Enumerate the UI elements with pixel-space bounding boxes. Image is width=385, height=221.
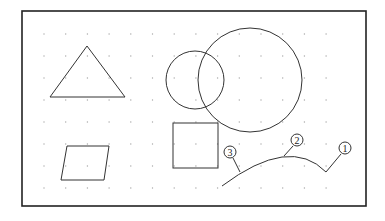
grid-dot	[152, 121, 153, 122]
grid-dot	[152, 187, 153, 188]
grid-dot	[239, 165, 240, 166]
grid-dot	[87, 143, 88, 144]
grid-dot	[65, 165, 66, 166]
grid-dot	[217, 33, 218, 34]
grid-dot	[195, 121, 196, 122]
grid-dot	[325, 99, 326, 100]
grid-dot	[108, 77, 109, 78]
grid-dot	[108, 121, 109, 122]
grid-dot	[108, 99, 109, 100]
grid-dot	[239, 143, 240, 144]
grid-dot	[325, 187, 326, 188]
grid-dot	[65, 55, 66, 56]
callout-number: 3	[228, 147, 233, 158]
grid-dot	[282, 99, 283, 100]
grid-dot	[130, 99, 131, 100]
grid-dot	[325, 165, 326, 166]
grid-dot	[195, 55, 196, 56]
grid-dot	[195, 77, 196, 78]
grid-dot	[130, 121, 131, 122]
grid-dot	[65, 77, 66, 78]
grid-dot	[87, 99, 88, 100]
grid-dot	[282, 121, 283, 122]
grid-dot	[239, 187, 240, 188]
grid-dot	[174, 143, 175, 144]
grid-dot	[130, 143, 131, 144]
grid-dot	[260, 77, 261, 78]
grid-dot	[43, 77, 44, 78]
grid-dot	[304, 165, 305, 166]
grid-dot	[43, 121, 44, 122]
grid-dot	[239, 99, 240, 100]
grid-dot	[304, 99, 305, 100]
grid-dot	[130, 165, 131, 166]
grid-dot	[43, 33, 44, 34]
grid-dot	[108, 187, 109, 188]
grid-dot	[152, 55, 153, 56]
grid-dot	[282, 55, 283, 56]
grid-dot	[217, 187, 218, 188]
grid-dot	[108, 165, 109, 166]
grid-dot	[217, 77, 218, 78]
grid-dot	[325, 121, 326, 122]
grid-dot	[130, 77, 131, 78]
grid-dot	[87, 187, 88, 188]
grid-dot	[152, 143, 153, 144]
grid-dot	[260, 99, 261, 100]
grid-dot	[152, 77, 153, 78]
grid-dot	[195, 143, 196, 144]
grid-dot	[282, 33, 283, 34]
grid-dot	[282, 165, 283, 166]
grid-dot	[87, 165, 88, 166]
grid-dot	[65, 187, 66, 188]
grid-dot	[195, 33, 196, 34]
grid-dot	[152, 99, 153, 100]
grid-dot	[260, 187, 261, 188]
grid-dot	[108, 33, 109, 34]
grid-dot	[65, 99, 66, 100]
grid-dot	[87, 77, 88, 78]
grid-dot	[65, 143, 66, 144]
grid-dot	[108, 143, 109, 144]
grid-dot	[304, 187, 305, 188]
grid-dot	[282, 187, 283, 188]
grid-dot	[304, 143, 305, 144]
grid-dot	[239, 33, 240, 34]
grid-dot	[325, 143, 326, 144]
grid-dot	[325, 77, 326, 78]
grid-dot	[87, 33, 88, 34]
grid-dot	[174, 121, 175, 122]
grid-dot	[65, 121, 66, 122]
grid-dot	[43, 165, 44, 166]
grid-dot	[260, 165, 261, 166]
grid-dot	[108, 55, 109, 56]
grid-dot	[195, 165, 196, 166]
grid-dot	[174, 165, 175, 166]
grid-dot	[239, 77, 240, 78]
grid-dot	[304, 121, 305, 122]
grid-dot	[325, 33, 326, 34]
grid-dot	[260, 143, 261, 144]
grid-dot	[195, 99, 196, 100]
grid-dot	[43, 143, 44, 144]
grid-dot	[174, 187, 175, 188]
grid-dot	[43, 99, 44, 100]
grid-dot	[174, 55, 175, 56]
grid-dot	[152, 33, 153, 34]
grid-dot	[217, 55, 218, 56]
grid-dot	[260, 55, 261, 56]
callout-number: 2	[295, 135, 300, 146]
grid-dot	[174, 77, 175, 78]
geometry-diagram: 123	[0, 0, 385, 221]
grid-dot	[152, 165, 153, 166]
grid-dot	[43, 55, 44, 56]
grid-dot	[130, 55, 131, 56]
grid-dot	[304, 55, 305, 56]
grid-dot	[260, 121, 261, 122]
grid-dot	[174, 33, 175, 34]
grid-dot	[304, 33, 305, 34]
grid-dot	[282, 143, 283, 144]
grid-dot	[239, 121, 240, 122]
grid-dot	[65, 33, 66, 34]
grid-dot	[87, 121, 88, 122]
